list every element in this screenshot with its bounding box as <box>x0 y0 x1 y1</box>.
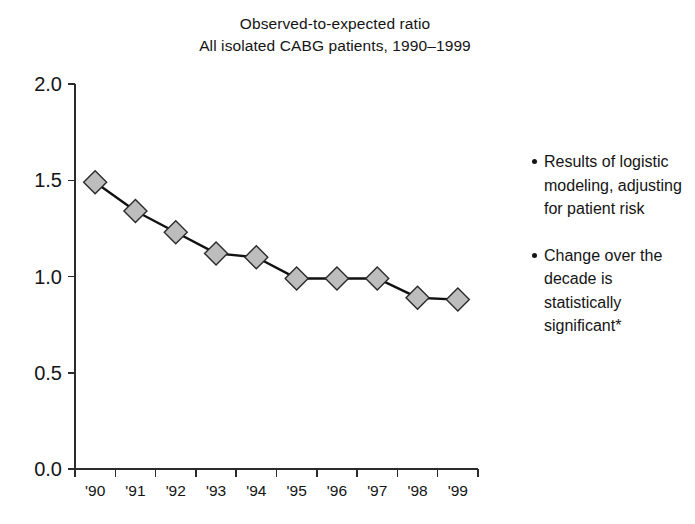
data-point-marker <box>285 267 308 290</box>
x-axis-tick-label: '96 <box>327 482 347 499</box>
chart-figure: Observed-to-expected ratio All isolated … <box>0 0 695 524</box>
list-item: Change over the decade is statistically … <box>530 244 690 338</box>
x-axis-tick-label: '99 <box>448 482 468 499</box>
data-markers <box>84 171 470 311</box>
bullet-icon <box>532 253 537 258</box>
y-axis-tick-label: 1.0 <box>34 266 62 288</box>
note-text: Results of logistic modeling, adjusting … <box>544 153 682 217</box>
data-point-marker <box>84 171 107 194</box>
data-point-marker <box>406 286 429 309</box>
data-point-marker <box>366 267 389 290</box>
y-axis-tick-label: 1.5 <box>34 169 62 191</box>
x-axis-tick-label: '98 <box>407 482 427 499</box>
bullet-icon <box>532 159 537 164</box>
x-axis-tick-label: '93 <box>206 482 226 499</box>
series-line <box>95 182 458 299</box>
list-item: Results of logistic modeling, adjusting … <box>530 150 690 221</box>
data-point-marker <box>124 200 147 223</box>
x-axis: '90'91'92'93'94'95'96'97'98'99 <box>75 469 478 499</box>
data-point-marker <box>205 242 228 265</box>
y-axis-tick-label: 0.0 <box>34 458 62 480</box>
data-point-marker <box>245 246 268 269</box>
note-text: Change over the decade is statistically … <box>544 247 662 335</box>
x-axis-tick-label: '92 <box>166 482 186 499</box>
x-axis-tick-label: '97 <box>367 482 387 499</box>
x-axis-tick-label: '94 <box>246 482 267 499</box>
y-axis-tick-label: 0.5 <box>34 362 62 384</box>
data-point-marker <box>446 288 469 311</box>
x-axis-tick-label: '95 <box>287 482 307 499</box>
x-axis-tick-label: '90 <box>85 482 106 499</box>
data-point-marker <box>164 221 187 244</box>
notes-list: Results of logistic modeling, adjusting … <box>530 150 690 338</box>
x-axis-tick-label: '91 <box>125 482 145 499</box>
data-point-marker <box>325 267 348 290</box>
y-axis-tick-label: 2.0 <box>34 73 62 95</box>
y-axis: 0.00.51.01.52.0 <box>34 73 75 480</box>
